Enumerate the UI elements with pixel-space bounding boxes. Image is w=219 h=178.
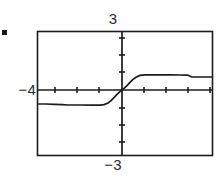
graph-figure: 3 −4 −3 <box>0 0 219 178</box>
plot-canvas <box>0 0 219 178</box>
screen-frame <box>38 32 213 156</box>
